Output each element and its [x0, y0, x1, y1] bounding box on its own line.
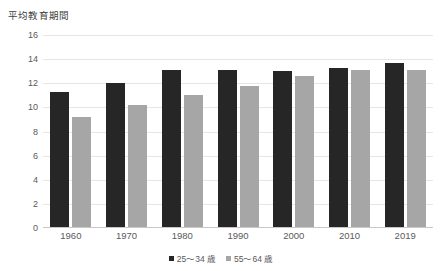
y-axis-tick-label: 4: [2, 175, 38, 185]
legend-item[interactable]: 55～64 歳: [226, 252, 273, 264]
bar[interactable]: [50, 92, 69, 228]
bar[interactable]: [184, 95, 203, 228]
x-axis-tick-label: 2000: [266, 230, 322, 241]
bar-group: [322, 35, 378, 228]
y-axis-tick-label: 8: [2, 127, 38, 137]
x-axis-tick-label: 1970: [99, 230, 155, 241]
legend-label: 25～34 歳: [177, 252, 216, 264]
bar[interactable]: [72, 117, 91, 228]
bar[interactable]: [106, 83, 125, 228]
bar-chart: 平均教育期間 0246810121416 1960197019801990200…: [0, 0, 442, 271]
legend-swatch-icon: [226, 256, 231, 261]
bar[interactable]: [128, 105, 147, 228]
y-axis-tick-label: 0: [2, 223, 38, 233]
x-axis-tick-label: 2019: [377, 230, 433, 241]
x-axis-tick-label: 1990: [210, 230, 266, 241]
bar[interactable]: [329, 68, 348, 228]
y-axis-tick-label: 6: [2, 151, 38, 161]
x-axis-tick-label: 2010: [322, 230, 378, 241]
bar[interactable]: [385, 63, 404, 228]
y-axis-tick-label: 12: [2, 78, 38, 88]
bar[interactable]: [240, 86, 259, 228]
bar-group: [266, 35, 322, 228]
bar[interactable]: [407, 70, 426, 228]
x-axis-tick-label: 1980: [154, 230, 210, 241]
bar-group: [43, 35, 99, 228]
bar[interactable]: [162, 70, 181, 228]
bar[interactable]: [351, 70, 370, 228]
legend-swatch-icon: [169, 256, 174, 261]
chart-title: 平均教育期間: [8, 8, 69, 22]
plot-area: 0246810121416: [43, 35, 433, 228]
bar[interactable]: [218, 70, 237, 228]
legend-label: 55～64 歳: [234, 252, 273, 264]
y-axis-tick-label: 2: [2, 199, 38, 209]
bar-group: [99, 35, 155, 228]
legend-item[interactable]: 25～34 歳: [169, 252, 216, 264]
bar-group: [210, 35, 266, 228]
bar-groups: [43, 35, 433, 228]
y-axis-tick-label: 14: [2, 54, 38, 64]
bar[interactable]: [295, 76, 314, 228]
y-axis-tick-label: 10: [2, 102, 38, 112]
bar-group: [377, 35, 433, 228]
bar-group: [154, 35, 210, 228]
x-axis-line: [43, 227, 433, 228]
chart-legend: 25～34 歳55～64 歳: [0, 252, 442, 264]
bar[interactable]: [273, 71, 292, 228]
x-axis-labels: 1960197019801990200020102019: [43, 230, 433, 241]
y-axis-tick-label: 16: [2, 30, 38, 40]
x-axis-tick-label: 1960: [43, 230, 99, 241]
